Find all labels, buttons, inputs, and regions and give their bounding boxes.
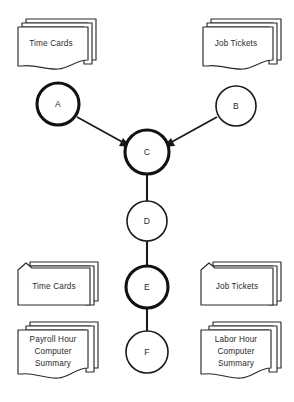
document-label-payroll-line2: Computer xyxy=(34,347,71,356)
node-label-d: D xyxy=(144,216,150,226)
document-time-cards-top: Time Cards xyxy=(18,19,96,69)
flowchart-diagram: Time Cards Job Tickets A B C D xyxy=(0,0,294,402)
node-c: C xyxy=(125,130,169,174)
document-label-time-cards-bottom: Time Cards xyxy=(32,282,76,291)
document-label-time-cards-top: Time Cards xyxy=(29,39,73,48)
flowchart-canvas: Time Cards Job Tickets A B C D xyxy=(0,0,294,402)
node-label-b: B xyxy=(233,101,239,111)
document-payroll-hour-summary: Payroll Hour Computer Summary xyxy=(18,322,98,378)
node-e: E xyxy=(126,266,168,308)
document-time-cards-bottom: Time Cards xyxy=(18,262,98,305)
document-label-payroll-line3: Summary xyxy=(35,359,72,368)
node-label-c: C xyxy=(144,147,150,157)
node-label-a: A xyxy=(55,99,61,109)
document-labor-hour-summary: Labor Hour Computer Summary xyxy=(201,322,281,378)
document-label-job-tickets-bottom: Job Tickets xyxy=(216,282,259,291)
node-label-f: F xyxy=(144,347,149,357)
arrow-shaft xyxy=(77,117,126,144)
node-d: D xyxy=(127,201,167,241)
node-f: F xyxy=(126,331,168,373)
document-job-tickets-bottom: Job Tickets xyxy=(201,262,281,305)
arrow-a-to-c xyxy=(77,117,131,147)
node-b: B xyxy=(216,86,256,126)
node-a: A xyxy=(37,83,79,125)
document-job-tickets-top: Job Tickets xyxy=(203,19,281,69)
node-label-e: E xyxy=(144,282,150,292)
arrow-shaft xyxy=(168,117,217,144)
document-label-payroll-line1: Payroll Hour xyxy=(30,335,77,344)
arrow-b-to-c xyxy=(163,117,217,147)
document-label-labor-line1: Labor Hour xyxy=(215,335,258,344)
document-label-labor-line2: Computer xyxy=(217,347,254,356)
document-label-labor-line3: Summary xyxy=(218,359,255,368)
document-label-job-tickets-top: Job Tickets xyxy=(215,39,258,48)
